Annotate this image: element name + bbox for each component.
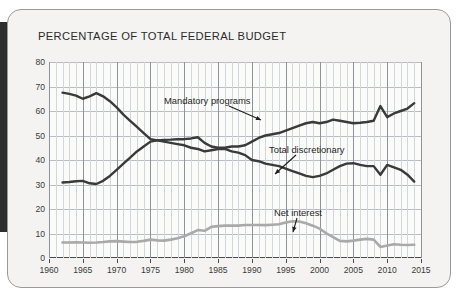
y-axis-tick-label: 0 xyxy=(19,253,45,263)
x-axis-tick-label: 1975 xyxy=(141,265,160,275)
gridline-vertical-major xyxy=(421,62,422,258)
series-line-net-interest xyxy=(63,221,415,247)
y-axis-tick-label: 40 xyxy=(19,155,45,165)
y-axis-tick-label: 30 xyxy=(19,180,45,190)
x-axis-tick-mark xyxy=(353,259,354,263)
x-axis-tick-label: 2000 xyxy=(310,265,329,275)
x-axis-tick-label: 1960 xyxy=(39,265,58,275)
x-axis-tick-label: 2015 xyxy=(411,265,430,275)
x-axis-tick-label: 1990 xyxy=(242,265,261,275)
x-axis-tick-mark xyxy=(117,259,118,263)
y-axis-tick-label: 60 xyxy=(19,106,45,116)
x-axis-tick-mark xyxy=(49,259,50,263)
annotation-label-net-interest: Net interest xyxy=(274,207,322,218)
y-axis-tick-label: 70 xyxy=(19,82,45,92)
annotation-label-mandatory-programs: Mandatory programs xyxy=(164,95,251,106)
y-axis-tick-label: 10 xyxy=(19,229,45,239)
annotation-label-total-discretionary: Total discretionary xyxy=(269,144,345,155)
chart-title: PERCENTAGE OF TOTAL FEDERAL BUDGET xyxy=(38,30,286,42)
x-axis-tick-label: 2010 xyxy=(378,265,397,275)
y-axis-tick-label: 80 xyxy=(19,57,45,67)
x-axis-tick-label: 1980 xyxy=(175,265,194,275)
x-axis-tick-mark xyxy=(286,259,287,263)
x-axis-tick-mark xyxy=(150,259,151,263)
x-axis-tick-mark xyxy=(387,259,388,263)
annotation-arrow-mandatory-programs xyxy=(229,106,261,120)
series-lines xyxy=(49,62,421,258)
x-axis-tick-label: 1965 xyxy=(73,265,92,275)
x-axis-tick-label: 1995 xyxy=(276,265,295,275)
x-axis-tick-mark xyxy=(218,259,219,263)
x-axis-tick-mark xyxy=(83,259,84,263)
x-axis-tick-label: 1985 xyxy=(209,265,228,275)
x-axis-tick-mark xyxy=(252,259,253,263)
y-axis-tick-label: 50 xyxy=(19,131,45,141)
x-axis-tick-label: 2005 xyxy=(344,265,363,275)
plot-area: 01020304050607080 1960196519701975198019… xyxy=(49,62,421,258)
y-axis-tick-label: 20 xyxy=(19,204,45,214)
x-axis-tick-label: 1970 xyxy=(107,265,126,275)
x-axis-tick-mark xyxy=(184,259,185,263)
x-axis-tick-mark xyxy=(320,259,321,263)
x-axis-tick-mark xyxy=(421,259,422,263)
chart-card: PERCENTAGE OF TOTAL FEDERAL BUDGET 01020… xyxy=(7,9,451,288)
series-line-mandatory-programs xyxy=(63,103,415,184)
